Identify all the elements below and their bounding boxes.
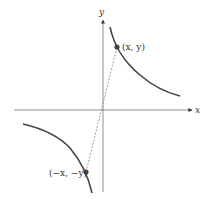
lower-curve [23,124,92,193]
y-axis-label: y [98,7,105,17]
point-x-y [114,44,119,49]
odd-function-diagram: x y (x, y) (−x, −y) [0,0,204,199]
dashed-line [86,47,117,172]
x-axis-label: x [195,105,200,115]
point-label-neg-x-neg-y: (−x, −y) [49,168,87,178]
point-label-x-y: (x, y) [122,42,145,52]
upper-curve [110,27,180,96]
